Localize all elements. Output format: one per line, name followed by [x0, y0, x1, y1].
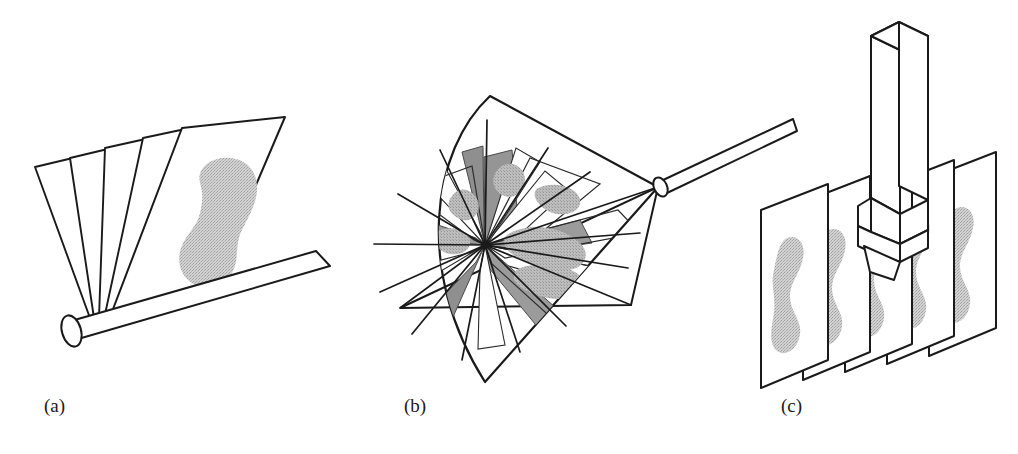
panel-label-a: (a) [44, 395, 65, 417]
probe-handle-right [899, 22, 928, 200]
panel-label-c: (c) [781, 395, 802, 417]
panel-b-rotation-centre [481, 241, 489, 249]
panel-c-slice-1 [761, 184, 828, 388]
figure-container: (a) [0, 0, 1018, 454]
probe-handle-front [871, 36, 900, 214]
panel-label-b: (b) [404, 395, 426, 417]
scanning-geometry-figure: (a) [0, 0, 1018, 454]
